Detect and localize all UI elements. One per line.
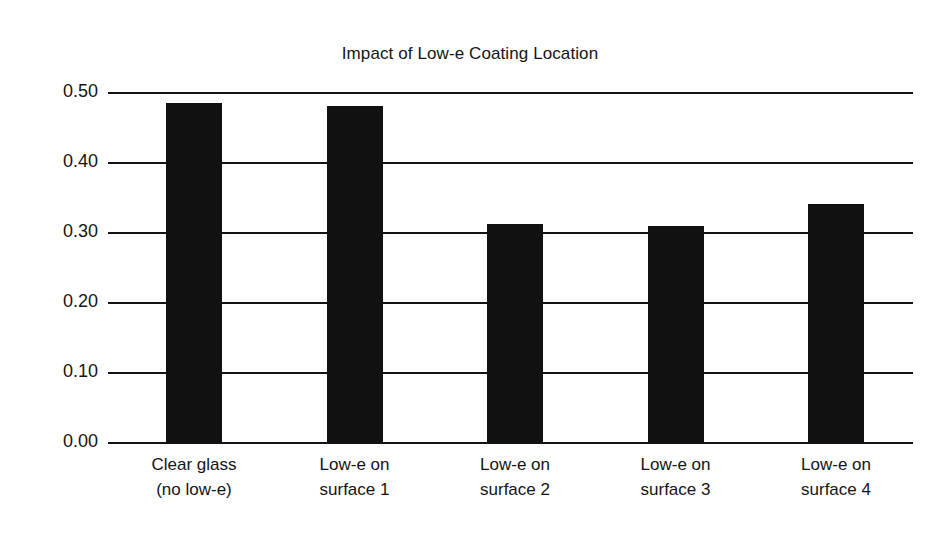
bar <box>327 106 383 442</box>
bar <box>808 204 864 442</box>
x-axis-tick-label-line1: Low-e on <box>756 452 916 477</box>
gridline <box>108 162 913 164</box>
x-axis-tick-label-line2: surface 1 <box>275 477 435 502</box>
x-axis-tick-label-line1: Clear glass <box>114 452 274 477</box>
x-axis-tick-label: Low-e onsurface 1 <box>275 452 435 502</box>
y-axis-tick-label: 0.20 <box>34 291 98 312</box>
y-axis-tick-label: 0.30 <box>34 221 98 242</box>
gridline <box>108 92 913 94</box>
x-axis-tick-label-line1: Low-e on <box>435 452 595 477</box>
plot-area <box>108 92 913 442</box>
x-axis-tick-label-line2: surface 3 <box>596 477 756 502</box>
y-axis-tick-label: 0.10 <box>34 361 98 382</box>
chart-title: Impact of Low-e Coating Location <box>0 44 940 64</box>
bar <box>166 103 222 442</box>
bar-chart: Impact of Low-e Coating Location Center … <box>0 0 940 546</box>
bar <box>648 226 704 442</box>
x-axis-tick-label: Low-e onsurface 4 <box>756 452 916 502</box>
x-axis-tick-label: Low-e onsurface 3 <box>596 452 756 502</box>
y-axis-tick-label: 0.40 <box>34 151 98 172</box>
y-axis-tick-label: 0.50 <box>34 81 98 102</box>
y-axis-tick-label: 0.00 <box>34 431 98 452</box>
y-axis-tick-labels: 0.500.400.300.200.100.00 <box>30 92 98 442</box>
x-axis-tick-label: Low-e onsurface 2 <box>435 452 595 502</box>
gridline <box>108 442 913 444</box>
x-axis-tick-label: Clear glass(no low-e) <box>114 452 274 502</box>
bar <box>487 224 543 442</box>
x-axis-tick-label-line2: surface 2 <box>435 477 595 502</box>
x-axis-tick-label-line1: Low-e on <box>275 452 435 477</box>
x-axis-tick-label-line2: surface 4 <box>756 477 916 502</box>
x-axis-tick-label-line2: (no low-e) <box>114 477 274 502</box>
x-axis-tick-labels: Clear glass(no low-e)Low-e onsurface 1Lo… <box>108 452 913 516</box>
x-axis-tick-label-line1: Low-e on <box>596 452 756 477</box>
